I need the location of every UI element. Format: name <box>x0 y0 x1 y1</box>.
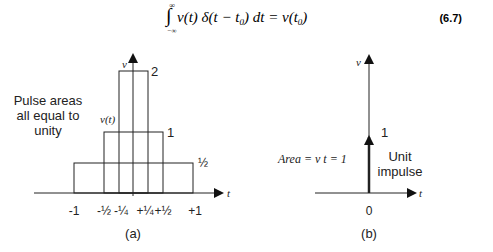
note-line-1: Pulse areas <box>14 93 83 108</box>
v-axis-label-a: v <box>122 58 127 70</box>
height-label-1: 1 <box>167 125 174 140</box>
tick-label-neg1: -1 <box>69 204 80 218</box>
height-label-2: 2 <box>151 64 158 79</box>
t-axis-label-a: t <box>227 187 231 199</box>
integral-lower-limit: −∞ <box>168 27 177 35</box>
tick-label-pos-half: +½ <box>154 204 171 218</box>
note-line-2: all equal to <box>17 108 80 123</box>
equation: ∞ ∫ −∞ v(t) δ(t − t0) dt = v(t0) (6.7) <box>164 1 462 35</box>
panel-b-labels: v t 1 Area = v t = 1 Unit impulse 0 (b) <box>277 56 423 241</box>
area-label: Area = v t = 1 <box>277 152 347 166</box>
equation-number: (6.7) <box>439 12 462 24</box>
panel-a-labels: v t v(t) 2 1 ½ Pulse areas all equal to … <box>14 58 231 241</box>
impulse-height-label: 1 <box>381 125 388 140</box>
caption-b: (b) <box>361 226 377 241</box>
v-axis-label-b: v <box>356 56 361 68</box>
caption-a: (a) <box>125 226 141 241</box>
curve-label: v(t) <box>100 113 116 126</box>
figure-canvas: ∞ ∫ −∞ v(t) δ(t − t0) dt = v(t0) (6.7) v… <box>0 0 493 252</box>
height-label-half: ½ <box>198 156 208 170</box>
impulse-label-line-1: Unit <box>388 149 412 164</box>
equation-text: v(t) δ(t − t0) dt = v(t0) <box>177 9 307 27</box>
tick-label-neg-half: -½ <box>97 204 111 218</box>
t-axis-label-b: t <box>419 187 423 199</box>
note-line-3: unity <box>34 123 62 138</box>
panel-a <box>34 55 222 196</box>
tick-label-neg-quarter: -¼ <box>114 204 129 218</box>
origin-label: 0 <box>366 204 373 218</box>
tick-label-pos1: +1 <box>188 204 202 218</box>
impulse-label-line-2: impulse <box>378 164 423 179</box>
tick-label-pos-quarter: +¼ <box>136 204 154 218</box>
